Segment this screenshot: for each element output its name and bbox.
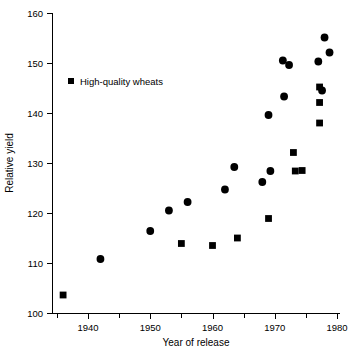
y-tick-label: 140	[27, 108, 43, 119]
data-point-circle	[326, 49, 334, 57]
y-tick-label: 110	[28, 258, 43, 269]
data-point-circle	[279, 57, 287, 65]
x-axis-title: Year of release	[163, 337, 230, 348]
data-point-square	[299, 167, 306, 174]
chart-container: 100110120130140150160 194019501960197019…	[0, 0, 358, 355]
data-point-circle	[285, 61, 293, 69]
x-tick-label: 1960	[202, 322, 223, 333]
data-point-circle	[146, 227, 154, 235]
y-tick-label: 160	[27, 8, 43, 19]
data-point-square	[60, 292, 67, 299]
series-high-quality-wheats	[60, 84, 323, 299]
y-tick-label: 130	[27, 158, 43, 169]
data-point-square	[265, 215, 272, 222]
y-tick-label: 100	[27, 308, 43, 319]
data-point-square	[316, 84, 323, 91]
data-point-circle	[258, 178, 266, 186]
data-point-circle	[314, 58, 322, 66]
x-tick-label: 1970	[264, 322, 285, 333]
data-point-square	[292, 168, 299, 175]
data-point-square	[316, 120, 323, 127]
x-axis-ticks: 19401950196019701980	[77, 314, 347, 334]
data-point-circle	[230, 163, 238, 171]
data-point-circle	[265, 111, 273, 119]
data-point-circle	[97, 255, 105, 263]
legend-square-marker-icon	[68, 78, 74, 84]
y-axis-title: Relative yield	[4, 133, 15, 192]
y-axis-ticks: 100110120130140150160	[27, 8, 52, 319]
data-point-circle	[221, 186, 229, 194]
axes-frame	[53, 13, 341, 314]
chart-legend: High-quality wheats	[68, 76, 163, 87]
data-point-circle	[321, 34, 329, 42]
data-point-circle	[280, 93, 288, 101]
x-tick-label: 1940	[77, 322, 98, 333]
x-axis-minor-ticks	[57, 314, 306, 319]
scatter-plot: 100110120130140150160 194019501960197019…	[0, 0, 358, 355]
data-point-square	[209, 242, 216, 249]
data-point-circle	[184, 198, 192, 206]
x-tick-label: 1950	[140, 322, 161, 333]
series-other-wheats	[97, 34, 334, 263]
y-tick-label: 150	[27, 58, 43, 69]
data-point-square	[316, 99, 323, 106]
legend-label: High-quality wheats	[80, 76, 163, 87]
data-point-square	[290, 149, 297, 156]
data-point-circle	[266, 167, 274, 175]
data-point-square	[178, 240, 185, 247]
y-tick-label: 120	[27, 208, 43, 219]
data-point-circle	[165, 207, 173, 215]
data-point-square	[234, 235, 241, 242]
x-tick-label: 1980	[326, 322, 347, 333]
data-series-layer	[60, 34, 334, 299]
